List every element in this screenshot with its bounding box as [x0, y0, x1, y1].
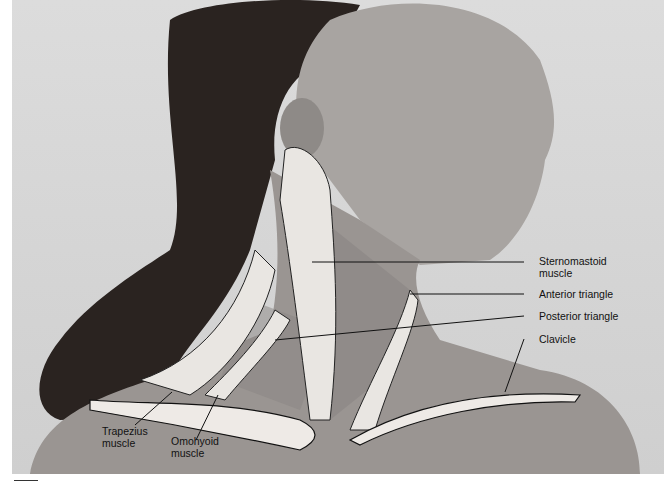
label-trapezius-line2: muscle — [102, 437, 148, 449]
scale-bar — [14, 480, 38, 481]
label-clavicle: Clavicle — [539, 333, 576, 345]
label-omohyoid: Omohyoid muscle — [171, 435, 219, 459]
neck-anatomy-illustration — [0, 0, 669, 487]
label-trapezius: Trapezius muscle — [102, 425, 148, 449]
label-sternomastoid-line2: muscle — [539, 267, 607, 279]
label-trapezius-line1: Trapezius — [102, 425, 148, 437]
label-sternomastoid-line1: Sternomastoid — [539, 255, 607, 267]
anatomy-figure: Sternomastoid muscle Anterior triangle P… — [0, 0, 669, 487]
label-omohyoid-line1: Omohyoid — [171, 435, 219, 447]
label-omohyoid-line2: muscle — [171, 447, 219, 459]
label-posterior-triangle: Posterior triangle — [539, 310, 618, 322]
label-anterior-triangle: Anterior triangle — [539, 288, 613, 300]
label-sternomastoid: Sternomastoid muscle — [539, 255, 607, 279]
